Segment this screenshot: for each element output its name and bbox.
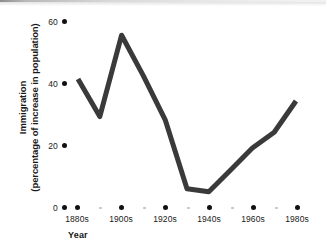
immigration-series-line — [78, 35, 296, 192]
immigration-line-chart: Immigration (percentage of increase in p… — [0, 0, 326, 248]
data-line-plot — [0, 0, 326, 248]
